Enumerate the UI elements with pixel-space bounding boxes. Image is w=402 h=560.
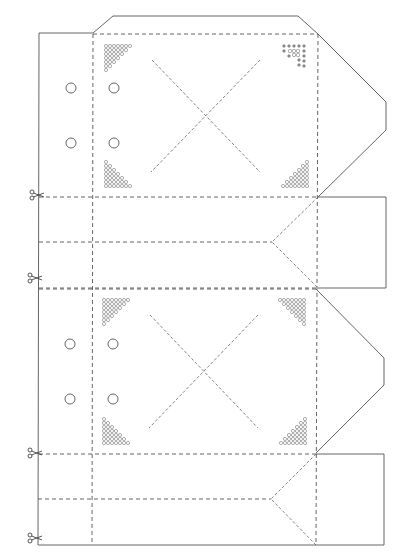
cross-stitch-motif-top-right bbox=[282, 44, 306, 68]
strip-1 bbox=[39, 197, 386, 288]
punch-hole-icon bbox=[108, 339, 118, 349]
cross-stitch-motif-top-left bbox=[102, 298, 129, 325]
scissors-icon bbox=[28, 273, 42, 283]
punch-hole-icon bbox=[108, 394, 118, 404]
cross-stitch-motif-bottom-right bbox=[279, 417, 306, 444]
strip-end-box bbox=[38, 454, 384, 545]
strip-v-fold bbox=[272, 197, 318, 288]
punch-hole-icon bbox=[66, 83, 76, 93]
cross-stitch-motif-bottom-left bbox=[102, 417, 129, 444]
strip-2 bbox=[38, 454, 384, 545]
punch-hole-icon bbox=[66, 138, 76, 148]
cross-stitch-motif-bottom-left bbox=[104, 160, 131, 187]
scissors-icon bbox=[28, 533, 42, 543]
cut-line-panel-2 bbox=[316, 289, 384, 453]
scissors-icon bbox=[30, 190, 44, 200]
diagonal-fold-1 bbox=[150, 315, 258, 428]
panel-1 bbox=[39, 16, 386, 197]
punch-hole-icon bbox=[109, 83, 119, 93]
cross-stitch-motif-top-left bbox=[104, 44, 131, 71]
punch-hole-icon bbox=[65, 394, 75, 404]
cut-line-panel-1 bbox=[39, 16, 386, 197]
cross-stitch-motif-top-right bbox=[278, 298, 305, 325]
box-template-diagram bbox=[0, 0, 402, 560]
scissors-icon bbox=[28, 448, 42, 458]
strip-end-box bbox=[318, 197, 386, 288]
panel-2 bbox=[39, 289, 384, 454]
strip-v-fold bbox=[271, 454, 316, 545]
left-outer-cut-line bbox=[38, 33, 39, 545]
punch-hole-icon bbox=[65, 339, 75, 349]
punch-hole-icon bbox=[109, 138, 119, 148]
cross-stitch-motif-bottom-right bbox=[281, 160, 308, 187]
left-fold-line bbox=[92, 34, 93, 545]
